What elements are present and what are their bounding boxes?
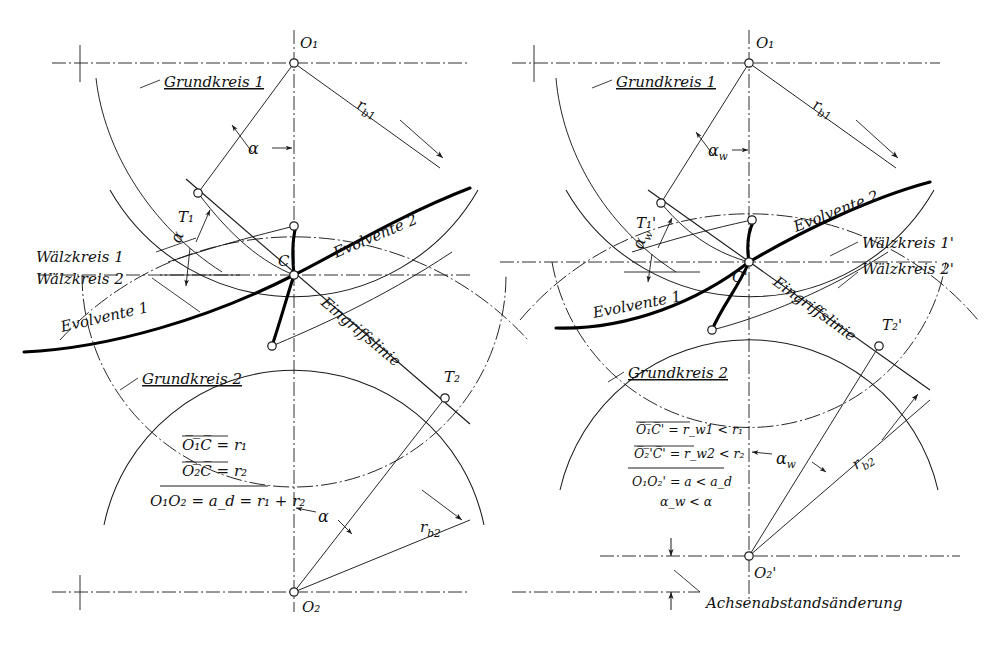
- right-grundkreis1-leader: [592, 80, 612, 88]
- point-T1: [194, 189, 202, 197]
- left-label-T2: T₂: [444, 368, 460, 386]
- right-alphaw-bottom-arrow-left: [752, 452, 772, 454]
- left-formula-line-2: O̅₂̅C̅ = r₂: [182, 461, 247, 480]
- right-diagram-group: αw αw αw rb1 rb2 O₁ O₂' C' T₁' T₂' Grund…: [500, 30, 978, 612]
- right-waelzkreis1p-leader: [830, 242, 858, 256]
- left-line-o2-rb2: [294, 520, 470, 592]
- point-lower-aux: [268, 342, 276, 350]
- axis-shift-leader: [674, 570, 700, 592]
- right-formula-line-4: α_w < α: [660, 494, 713, 509]
- right-label-Cp: C': [732, 268, 748, 286]
- right-alphaw-top-sub: w: [719, 150, 728, 162]
- point-O2-prime: [745, 552, 753, 560]
- left-alpha-top-label: α: [248, 139, 259, 158]
- right-rb2-arrow: [882, 394, 918, 440]
- right-rb2-label: rb2: [849, 447, 878, 476]
- right-label-T1p: T₁': [636, 214, 656, 232]
- right-label-waelzkreis1p: Wälzkreis 1': [862, 234, 954, 252]
- right-label-waelzkreis2p: Wälzkreis 2': [862, 260, 954, 278]
- right-alphaw-bottom-label: αw: [776, 449, 796, 470]
- left-label-grundkreis2: Grundkreis 2: [142, 370, 242, 388]
- right-line-o2p-rb2: [749, 400, 930, 556]
- left-label-O1: O₁: [300, 34, 318, 52]
- left-label-evolvente2: Evolvente 2: [330, 210, 420, 262]
- right-point-lower-aux: [708, 326, 716, 334]
- right-line-o2p-t2p: [749, 346, 879, 556]
- left-label-eingriffslinie: Eingriffslinie: [317, 293, 405, 371]
- left-alpha-t1-label: α: [166, 228, 188, 245]
- left-involute-2-tail: [293, 226, 296, 275]
- right-involute-2-tail: [748, 220, 754, 262]
- left-rb1-arrow: [400, 120, 443, 158]
- right-formula-line-1: O̅₁̅C̅' = r_w1 < r₁: [636, 422, 743, 437]
- left-rb1-sub: b1: [360, 106, 377, 122]
- left-rb2-label: rb2: [420, 518, 441, 539]
- right-label-T2p: T₂': [882, 316, 902, 334]
- left-radius-lines-o2: [294, 398, 470, 592]
- right-rb1-sub: b1: [816, 106, 833, 122]
- left-alpha-bottom-label: α: [318, 507, 329, 526]
- left-label-O2: O₂: [302, 598, 320, 616]
- right-axis-shift-dimension: [671, 538, 700, 610]
- left-line-o2-t2: [294, 398, 445, 592]
- left-rb2-sub: b2: [427, 527, 441, 539]
- point-O1-right: [745, 59, 753, 67]
- right-label-evolvente2: Evolvente 2: [790, 187, 881, 236]
- left-diagram-group: α α α rb1 rb2 O₁ O₂ C T₁ T₂ Grundkreis 1…: [24, 30, 528, 616]
- left-rb2-arrow: [422, 490, 462, 520]
- left-alpha-bottom-arrow-right: [338, 520, 352, 534]
- point-upper-aux: [290, 222, 298, 230]
- right-label-grundkreis2: Grundkreis 2: [628, 364, 728, 382]
- right-formula-line-2: O̅₂̅'C̅' = r_w2 < r₂: [634, 446, 744, 461]
- involute-gear-diagram: α α α rb1 rb2 O₁ O₂ C T₁ T₂ Grundkreis 1…: [0, 0, 993, 646]
- left-label-T1: T₁: [178, 208, 194, 226]
- left-formula-line-3: O₁O₂ = a_d = r₁ + r₂: [150, 492, 305, 510]
- left-formula-line-1: O̅₁̅C̅ = r₁: [182, 435, 247, 454]
- right-label-O1: O₁: [756, 34, 774, 52]
- point-C-prime: [745, 258, 753, 266]
- point-T2-prime: [875, 342, 883, 350]
- left-label-waelzkreis1: Wälzkreis 1: [36, 248, 124, 266]
- right-grundkreis2-leader: [608, 372, 624, 382]
- right-point-upper-aux: [748, 216, 756, 224]
- left-grundkreis1-leader: [140, 80, 160, 88]
- right-alphaw-bottom-arrow-right: [812, 462, 826, 472]
- right-alphaw-top-label: αw: [708, 141, 728, 162]
- right-label-eingriffslinie: Eingriffslinie: [769, 272, 860, 345]
- right-label-grundkreis1: Grundkreis 1: [616, 73, 716, 91]
- right-label-O2p: O₂': [754, 564, 776, 582]
- point-T2: [441, 394, 449, 402]
- right-alphaw-t1-arrow-up: [658, 218, 672, 248]
- left-label-C: C: [278, 252, 290, 270]
- right-alphaw-bottom-alpha: α: [776, 449, 787, 468]
- right-formula-block: O̅₁̅C̅' = r_w1 < r₁ O̅₂̅'C̅' = r_w2 < r₂…: [628, 422, 744, 509]
- right-rb1-arrow: [856, 120, 898, 158]
- left-alpha-t1-arrow-up: [196, 210, 210, 242]
- right-formula-line-3: O₁O₂' = a < a_d: [632, 474, 732, 489]
- right-aux-arc-t1p-c: [661, 203, 749, 262]
- point-O1: [290, 59, 298, 67]
- right-alphaw-t1-arrow-down: [648, 254, 652, 282]
- left-alpha-t1-arrows: [160, 210, 240, 286]
- left-waelzkreis2-leader: [152, 278, 200, 312]
- left-label-grundkreis1: Grundkreis 1: [164, 73, 264, 91]
- left-formula-block: O̅₁̅C̅ = r₁ O̅₂̅C̅ = r₂ O₁O₂ = a_d = r₁ …: [150, 435, 305, 510]
- right-alphaw-top-alpha: α: [708, 141, 719, 160]
- point-O2: [290, 588, 298, 596]
- technical-drawing-figure: α α α rb1 rb2 O₁ O₂ C T₁ T₂ Grundkreis 1…: [0, 0, 993, 646]
- left-label-evolvente1: Evolvente 1: [58, 298, 150, 336]
- right-label-achsenabstandsaenderung: Achsenabstandsänderung: [704, 594, 902, 612]
- left-label-waelzkreis2: Wälzkreis 2: [36, 270, 124, 288]
- left-alpha-top-arrows: [232, 125, 292, 152]
- left-aux-flank-line: [96, 78, 222, 272]
- left-rb1-label: rb1: [353, 95, 380, 122]
- point-C: [290, 271, 298, 279]
- right-alphaw-bottom-sub: w: [787, 458, 796, 470]
- right-aux-flank-line: [556, 78, 676, 272]
- right-rb1-label: rb1: [809, 95, 836, 122]
- point-T1-prime: [657, 199, 665, 207]
- left-grundkreis2-leader: [120, 378, 138, 390]
